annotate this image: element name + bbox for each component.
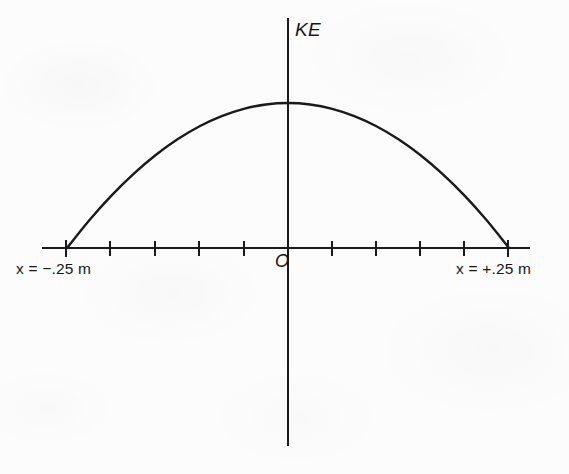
kinetic-energy-vs-position-figure: KE O x = −.25 m x = +.25 m [0, 0, 569, 474]
y-axis-label: KE [295, 20, 321, 39]
plot-canvas [0, 0, 569, 474]
left-endpoint-label: x = −.25 m [16, 261, 91, 277]
right-endpoint-label: x = +.25 m [456, 261, 531, 277]
origin-label: O [275, 252, 289, 270]
